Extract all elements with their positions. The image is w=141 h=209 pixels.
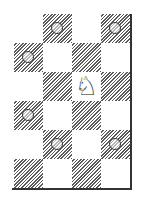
move-target-circle-icon	[22, 109, 34, 121]
board-square	[43, 101, 72, 130]
board-square	[101, 101, 130, 130]
board-square	[43, 14, 72, 43]
board-square	[43, 72, 72, 101]
move-target-circle-icon	[22, 51, 34, 63]
board-square	[14, 101, 43, 130]
board-square	[72, 14, 101, 43]
move-target-circle-icon	[109, 22, 121, 34]
move-target-circle-icon	[51, 138, 63, 150]
board-square	[72, 130, 101, 159]
board-square	[43, 159, 72, 188]
board-right-edge	[130, 14, 132, 189]
chess-board-fragment: ♘	[14, 14, 130, 188]
board-square	[101, 43, 130, 72]
board-square	[101, 72, 130, 101]
board-square	[43, 130, 72, 159]
board-square	[14, 72, 43, 101]
board-square	[101, 159, 130, 188]
move-target-circle-icon	[109, 138, 121, 150]
board-square	[14, 14, 43, 43]
move-target-circle-icon	[51, 22, 63, 34]
board-square	[43, 43, 72, 72]
white-knight-icon: ♘	[72, 72, 101, 101]
board-square	[14, 43, 43, 72]
board-square	[101, 130, 130, 159]
board-bottom-edge	[12, 188, 132, 190]
board-square: ♘	[72, 72, 101, 101]
board-square	[14, 130, 43, 159]
board-square	[14, 159, 43, 188]
board-square	[101, 14, 130, 43]
board-square	[72, 159, 101, 188]
board-square	[72, 101, 101, 130]
board-square	[72, 43, 101, 72]
